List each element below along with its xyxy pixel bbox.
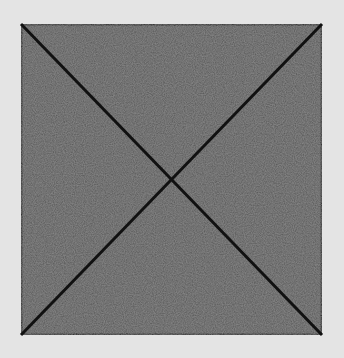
diagram-canvas xyxy=(0,0,344,358)
